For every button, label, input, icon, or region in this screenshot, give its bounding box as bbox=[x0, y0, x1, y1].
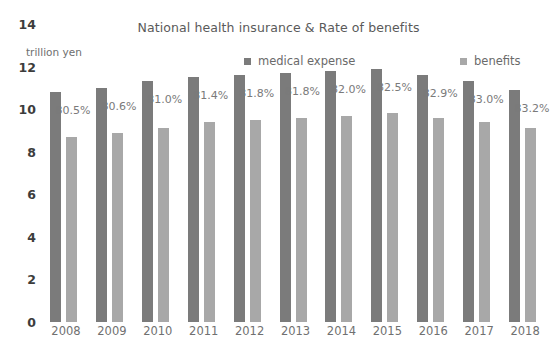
y-axis-tick-label: 8 bbox=[27, 144, 36, 159]
y-axis-tick-label: 10 bbox=[19, 102, 36, 117]
y-axis-tick-label: 4 bbox=[27, 229, 36, 244]
rate-of-benefits-label: 82.0% bbox=[331, 83, 366, 96]
x-axis-tick-label: 2013 bbox=[281, 324, 310, 338]
bar-medical-expense[interactable] bbox=[325, 71, 336, 322]
x-axis-tick-label: 2014 bbox=[327, 324, 356, 338]
y-axis: 02468101214 bbox=[0, 24, 46, 322]
bar-benefits[interactable] bbox=[66, 137, 77, 322]
y-axis-tick-label: 12 bbox=[19, 59, 36, 74]
bar-group bbox=[505, 24, 551, 322]
rate-of-benefits-label: 82.5% bbox=[377, 81, 412, 94]
x-axis-tick-label: 2012 bbox=[235, 324, 264, 338]
bar-benefits[interactable] bbox=[479, 122, 490, 322]
bar-medical-expense[interactable] bbox=[50, 92, 61, 322]
plot-area: 80.5%80.6%81.0%81.4%81.8%81.8%82.0%82.5%… bbox=[46, 24, 551, 322]
bar-group bbox=[138, 24, 184, 322]
bar-medical-expense[interactable] bbox=[371, 69, 382, 322]
bar-medical-expense[interactable] bbox=[280, 73, 291, 322]
rate-of-benefits-label: 80.5% bbox=[56, 104, 91, 117]
chart-container: National health insurance & Rate of bene… bbox=[0, 0, 557, 363]
x-axis-tick-label: 2016 bbox=[419, 324, 448, 338]
bar-medical-expense[interactable] bbox=[234, 75, 245, 322]
bar-benefits[interactable] bbox=[341, 116, 352, 322]
rate-of-benefits-label: 83.2% bbox=[515, 102, 550, 115]
rate-of-benefits-label: 81.0% bbox=[147, 93, 182, 106]
rate-of-benefits-label: 81.8% bbox=[285, 85, 320, 98]
x-axis-tick-label: 2015 bbox=[373, 324, 402, 338]
x-axis-tick-label: 2011 bbox=[189, 324, 218, 338]
bar-medical-expense[interactable] bbox=[509, 90, 520, 322]
bar-group bbox=[276, 24, 322, 322]
bar-benefits[interactable] bbox=[250, 120, 261, 322]
bar-benefits[interactable] bbox=[112, 133, 123, 322]
x-axis-tick-label: 2008 bbox=[51, 324, 80, 338]
bar-medical-expense[interactable] bbox=[96, 88, 107, 322]
bar-group bbox=[46, 24, 92, 322]
y-axis-tick-label: 0 bbox=[27, 315, 36, 330]
y-axis-tick-label: 14 bbox=[19, 17, 36, 32]
bar-benefits[interactable] bbox=[296, 118, 307, 322]
rate-of-benefits-label: 80.6% bbox=[101, 100, 136, 113]
bar-group bbox=[321, 24, 367, 322]
bar-group bbox=[184, 24, 230, 322]
x-axis: 2008200920102011201220132014201520162017… bbox=[46, 324, 551, 344]
bar-group bbox=[459, 24, 505, 322]
bar-group bbox=[230, 24, 276, 322]
bar-benefits[interactable] bbox=[433, 118, 444, 322]
x-axis-tick-label: 2010 bbox=[143, 324, 172, 338]
bar-benefits[interactable] bbox=[525, 128, 536, 322]
rate-of-benefits-label: 82.9% bbox=[423, 87, 458, 100]
bar-group bbox=[413, 24, 459, 322]
y-axis-tick-label: 2 bbox=[27, 272, 36, 287]
bar-group bbox=[92, 24, 138, 322]
bar-medical-expense[interactable] bbox=[417, 75, 428, 322]
x-axis-tick-label: 2018 bbox=[510, 324, 539, 338]
bar-benefits[interactable] bbox=[204, 122, 215, 322]
bar-benefits[interactable] bbox=[387, 113, 398, 322]
bar-medical-expense[interactable] bbox=[188, 77, 199, 322]
y-axis-tick-label: 6 bbox=[27, 187, 36, 202]
rate-of-benefits-label: 83.0% bbox=[469, 93, 504, 106]
bar-group bbox=[367, 24, 413, 322]
rate-of-benefits-label: 81.4% bbox=[193, 89, 228, 102]
bar-benefits[interactable] bbox=[158, 128, 169, 322]
bar-medical-expense[interactable] bbox=[142, 81, 153, 322]
x-axis-tick-label: 2009 bbox=[97, 324, 126, 338]
x-axis-tick-label: 2017 bbox=[465, 324, 494, 338]
bar-medical-expense[interactable] bbox=[463, 81, 474, 322]
rate-of-benefits-label: 81.8% bbox=[239, 87, 274, 100]
